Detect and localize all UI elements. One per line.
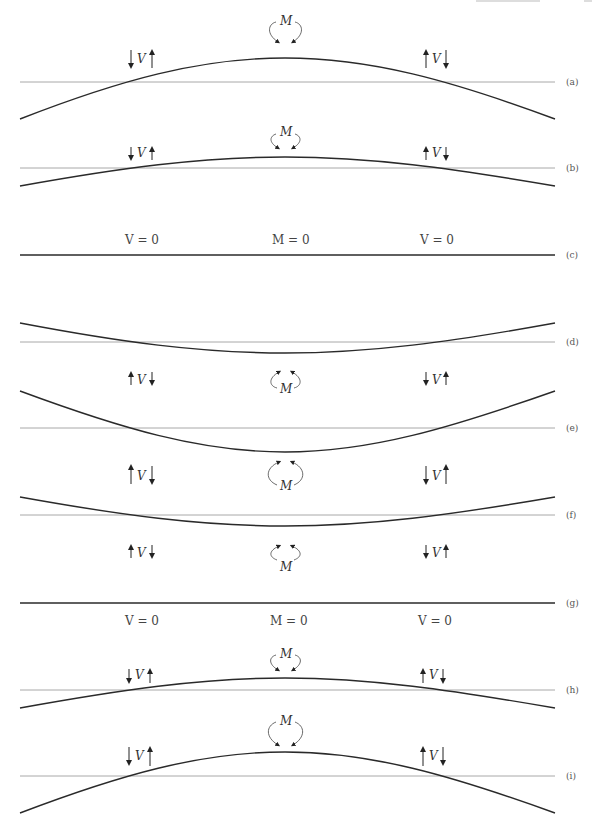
panel-label: (f) <box>566 510 576 520</box>
shear-symbol: V <box>137 469 147 483</box>
panel-e: V V M (e) <box>20 391 578 493</box>
moment-zero-label: M = 0 <box>270 614 308 628</box>
shear-pair-left: V <box>129 668 150 683</box>
shear-zero-label: V = 0 <box>124 233 159 247</box>
deflected-beam <box>20 391 555 452</box>
panel-label: (i) <box>566 771 576 781</box>
moment-symbol-group: M <box>271 125 300 148</box>
panel-a: V V M (a) <box>20 14 578 119</box>
shear-pair-right: V <box>426 545 446 560</box>
shear-pair-left: V <box>131 50 152 68</box>
shear-pair-right: V <box>426 146 446 160</box>
shear-symbol: V <box>432 373 442 387</box>
shear-symbol: V <box>432 469 442 483</box>
moment-symbol: M <box>279 125 293 139</box>
deflected-beam <box>20 58 555 119</box>
shear-pair-right: V <box>423 747 443 766</box>
deflected-beam <box>20 157 555 186</box>
moment-symbol-group: M <box>270 14 302 42</box>
panel-b: V V M (b) <box>20 125 579 186</box>
shear-pair-right: V <box>426 466 446 484</box>
panel-label: (g) <box>566 598 579 608</box>
panel-d: V V (d) <box>20 323 579 388</box>
panel-h: V V M (h) <box>20 647 579 708</box>
moment-zero-label: M = 0 <box>272 233 310 247</box>
panel-label: (b) <box>566 163 579 173</box>
panel-c: V = 0 M = 0 V = 0 (c) <box>20 233 578 260</box>
shear-pair-right: V <box>426 372 446 387</box>
panel-label: (e) <box>566 423 578 433</box>
shear-zero-label: V = 0 <box>417 614 452 628</box>
shear-symbol: V <box>432 546 442 560</box>
panel-i: V V M (i) <box>20 714 576 813</box>
moment-symbol-group: M <box>271 647 301 670</box>
panel-g: V = 0 M = 0 V = 0 (g) <box>20 598 579 628</box>
deflected-beam <box>20 323 555 353</box>
shear-pair-left: V <box>131 146 152 160</box>
shear-symbol: V <box>137 546 147 560</box>
moment-symbol: M <box>279 714 293 728</box>
shear-symbol: V <box>137 52 147 66</box>
page-header-fragment <box>476 0 592 2</box>
moment-symbol-group: M <box>268 462 303 493</box>
moment-symbol-group: M <box>271 546 300 574</box>
moment-symbol: M <box>279 382 293 396</box>
shear-pair-right: V <box>426 50 446 68</box>
shear-pair-right: V <box>423 668 443 683</box>
shear-pair-left: V <box>131 545 152 560</box>
shear-zero-label: V = 0 <box>419 233 454 247</box>
shear-symbol: V <box>135 749 145 763</box>
moment-symbol: M <box>279 560 293 574</box>
panel-f: V V M (f) <box>20 497 576 574</box>
shear-symbol: V <box>137 373 147 387</box>
moment-symbol: M <box>279 14 293 28</box>
moment-symbol: M <box>279 479 293 493</box>
panel-label: (d) <box>566 337 579 347</box>
shear-symbol: V <box>432 52 442 66</box>
moment-symbol-group: M <box>268 714 302 745</box>
shear-symbol: V <box>429 668 439 682</box>
deflected-beam <box>20 752 555 813</box>
shear-symbol: V <box>137 146 147 160</box>
panel-label: (c) <box>566 250 578 260</box>
panel-label: (a) <box>566 77 578 87</box>
shear-symbol: V <box>135 668 145 682</box>
shear-symbol: V <box>429 749 439 763</box>
shear-pair-left: V <box>129 747 150 766</box>
shear-pair-left: V <box>131 372 152 387</box>
deflected-beam <box>20 497 555 526</box>
shear-zero-label: V = 0 <box>124 614 159 628</box>
deflected-beam <box>20 678 555 708</box>
beam-deflection-figure: V V M (a) V V M <box>0 0 594 830</box>
panel-label: (h) <box>566 685 579 695</box>
shear-pair-left: V <box>131 466 152 484</box>
shear-symbol: V <box>432 146 442 160</box>
moment-symbol: M <box>279 647 293 661</box>
